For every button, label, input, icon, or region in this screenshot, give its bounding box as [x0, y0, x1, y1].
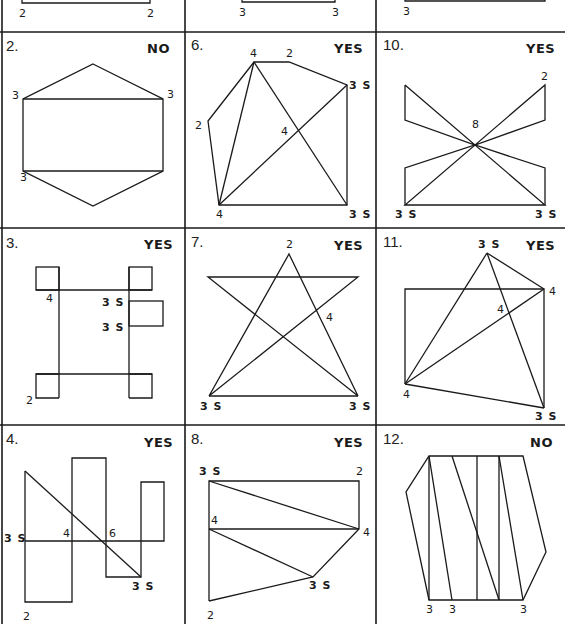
- figure-9-partial: [405, 0, 545, 1]
- vertex-label: 3: [403, 6, 410, 17]
- vertex-label: 8: [472, 119, 479, 130]
- problem-number: 8.: [191, 431, 204, 446]
- problem-number: 10.: [383, 37, 404, 52]
- vertex-label: 4: [497, 304, 504, 315]
- problem-number: 11.: [383, 234, 403, 249]
- problem-number: 4.: [6, 431, 19, 446]
- vertex-label: 3: [12, 90, 19, 101]
- vertex-label: 4: [250, 48, 257, 59]
- vertex-label: 2: [26, 395, 33, 406]
- problem-number: 12.: [383, 431, 404, 446]
- vertex-label: 3 S: [395, 209, 416, 220]
- problem-number: 7.: [191, 234, 204, 249]
- vertex-label: 2: [207, 610, 214, 621]
- vertex-label: 3: [239, 7, 246, 18]
- vertex-label: 4: [211, 515, 218, 526]
- vertex-label: 3: [426, 604, 433, 615]
- vertex-label: 4: [216, 209, 223, 220]
- vertex-label: 4: [363, 527, 370, 538]
- vertex-label: 3 S: [102, 322, 123, 333]
- vertex-label: 4: [403, 389, 410, 400]
- vertex-label: 3: [167, 89, 174, 100]
- vertex-label: 3 S: [199, 466, 220, 477]
- answer-label: YES: [334, 239, 363, 252]
- answer-label: YES: [334, 436, 363, 449]
- vertex-label: 3 S: [349, 401, 370, 412]
- vertex-label: 4: [281, 126, 288, 137]
- vertex-label: 3: [20, 172, 27, 183]
- figure-5-partial: [242, 0, 335, 2]
- vertex-label: 2: [286, 239, 293, 250]
- vertex-label: 3 S: [132, 581, 153, 592]
- vertex-label: 4: [46, 293, 53, 304]
- vertex-label: 3 S: [535, 209, 556, 220]
- vertex-label: 6: [109, 528, 116, 539]
- answer-label: YES: [526, 239, 555, 252]
- answer-label: YES: [144, 436, 173, 449]
- vertex-label: 3: [449, 604, 456, 615]
- vertex-label: 3 S: [349, 80, 370, 91]
- answer-label: NO: [530, 436, 553, 449]
- vertex-label: 4: [63, 528, 70, 539]
- answer-label: YES: [334, 42, 363, 55]
- vertex-label: 3 S: [102, 297, 123, 308]
- figure-7: [208, 254, 358, 396]
- problem-number: 6.: [191, 37, 204, 52]
- answer-label: YES: [144, 238, 173, 251]
- problem-number: 2.: [6, 38, 19, 53]
- problem-number: 3.: [6, 235, 19, 250]
- figure-12: [406, 456, 546, 600]
- figure-10: [405, 85, 545, 205]
- vertex-label: 2: [356, 466, 363, 477]
- figure-1-partial: [22, 0, 150, 3]
- answer-label: NO: [147, 42, 170, 55]
- figure-canvas: [0, 0, 565, 624]
- figure-6: [208, 62, 347, 205]
- vertex-label: 3 S: [200, 401, 221, 412]
- vertex-label: 3 S: [349, 209, 370, 220]
- figure-3: [36, 267, 163, 398]
- vertex-label: 4: [326, 312, 333, 323]
- vertex-label: 3 S: [309, 580, 330, 591]
- vertex-label: 3: [332, 7, 339, 18]
- answer-label: YES: [526, 42, 555, 55]
- vertex-label: 2: [286, 48, 293, 59]
- grid-lines: [0, 0, 565, 624]
- vertex-label: 2: [195, 120, 202, 131]
- figure-11: [405, 253, 544, 408]
- vertex-label: 3 S: [4, 533, 25, 544]
- vertex-label: 2: [23, 611, 30, 622]
- figure-2: [23, 64, 163, 206]
- vertex-label: 3 S: [478, 239, 499, 250]
- vertex-label: 2: [19, 8, 26, 19]
- vertex-label: 3 S: [535, 411, 556, 422]
- puzzle-sheet: 2 2 3 3 3 2. NO 3 3 3 6. YES 4 2 3 S 2 4…: [0, 0, 565, 624]
- vertex-label: 4: [549, 286, 556, 297]
- vertex-label: 2: [541, 71, 548, 82]
- vertex-label: 3: [520, 604, 527, 615]
- figure-8: [209, 481, 359, 601]
- vertex-label: 2: [147, 8, 154, 19]
